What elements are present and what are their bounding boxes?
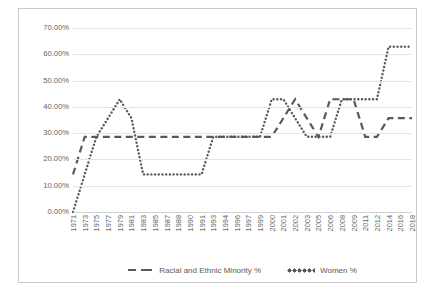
y-axis-tick-label: 30.00% [23,129,69,137]
x-axis-tick-label: 1979 [116,215,125,231]
dotted-line-swatch-icon [287,266,315,274]
series-line-women [73,47,412,212]
x-axis-labels: 1971197319751977197919811983198519871988… [73,215,412,259]
gridline [73,186,412,187]
y-axis-tick-label: 70.00% [23,24,69,32]
gridline [73,133,412,134]
x-axis-tick-label: 1973 [81,215,90,231]
legend-item-women[interactable]: Women % [287,266,357,275]
x-axis-tick-label: 1971 [69,215,78,231]
x-axis-tick-label: 1990 [186,215,195,231]
x-axis-tick-label: 1991 [198,215,207,231]
x-axis-tick-label: 2005 [314,215,323,231]
x-axis-tick-label: 1987 [163,215,172,231]
x-axis-tick-label: 1981 [127,215,136,231]
y-axis-tick-label: 10.00% [23,182,69,190]
dashed-line-swatch-icon [128,266,154,274]
x-axis-tick-label: 2016 [396,215,405,231]
x-axis-tick-label: 1999 [256,215,265,231]
x-axis-tick-label: 1977 [104,215,113,231]
x-axis-tick-label: 1996 [233,215,242,231]
x-axis-tick-label: 1985 [151,215,160,231]
legend-label-women: Women % [320,266,357,275]
legend-label-minority: Racial and Ethnic Minority % [159,266,261,275]
x-axis-tick-label: 2014 [385,215,394,231]
y-axis-tick-label: 20.00% [23,155,69,163]
plot-area [73,28,412,212]
gridline [73,28,412,29]
y-axis-tick-label: 40.00% [23,103,69,111]
x-axis-tick-label: 2012 [373,215,382,231]
x-axis-tick-label: 2009 [350,215,359,231]
y-axis-tick-label: 0.00% [23,208,69,216]
x-axis-tick-label: 2001 [279,215,288,231]
chart-legend: Racial and Ethnic Minority % Women % [73,262,412,278]
gridline [73,159,412,160]
y-axis-tick-label: 60.00% [23,50,69,58]
x-axis-tick-label: 2006 [326,215,335,231]
x-axis-tick-label: 2008 [338,215,347,231]
x-axis-tick-label: 2018 [408,215,417,231]
x-axis-tick-label: 1993 [209,215,218,231]
y-axis-labels: 0.00%10.00%20.00%30.00%40.00%50.00%60.00… [21,9,69,284]
chart-plot-wrapper: 0.00%10.00%20.00%30.00%40.00%50.00%60.00… [19,9,418,284]
gridline [73,54,412,55]
x-axis-tick-label: 2000 [268,215,277,231]
x-axis-line [73,212,412,213]
x-axis-tick-label: 1988 [174,215,183,231]
x-axis-tick-label: 2011 [361,215,370,231]
x-axis-tick-label: 1975 [92,215,101,231]
x-axis-tick-label: 1997 [244,215,253,231]
x-axis-tick-label: 1983 [139,215,148,231]
x-axis-tick-label: 2003 [303,215,312,231]
chart-container: 0.00%10.00%20.00%30.00%40.00%50.00%60.00… [18,8,417,283]
gridline [73,81,412,82]
legend-item-minority[interactable]: Racial and Ethnic Minority % [128,266,261,275]
series-lines [73,28,412,212]
gridline [73,107,412,108]
x-axis-tick-label: 2002 [291,215,300,231]
x-axis-tick-label: 1994 [221,215,230,231]
y-axis-tick-label: 50.00% [23,77,69,85]
